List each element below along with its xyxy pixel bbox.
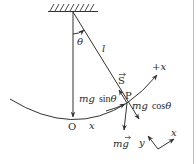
arc-x-label: x xyxy=(89,120,95,131)
svg-text:mg: mg xyxy=(113,138,129,149)
mg-sin-theta-label: mg sinθ xyxy=(79,88,117,105)
pendulum-diagram: θ l +x S P mg sinθ mg cosθ mg O x y x xyxy=(0,0,196,164)
local-axes: y x xyxy=(138,127,177,149)
theta-label: θ xyxy=(77,36,83,47)
mg-cos-theta-label: mg cosθ xyxy=(132,95,171,112)
axis-x-label: x xyxy=(171,127,177,138)
point-p-label: P xyxy=(125,90,132,101)
svg-text:S: S xyxy=(118,75,125,86)
tension-label: S xyxy=(118,73,126,86)
weight-label: mg xyxy=(113,136,131,149)
origin-o-label: O xyxy=(68,121,76,132)
weight-vector xyxy=(124,103,127,130)
plus-x-label: +x xyxy=(152,61,166,72)
axis-y-label: y xyxy=(138,137,145,148)
theta-angle-arc xyxy=(73,30,84,34)
ceiling-support xyxy=(48,4,98,12)
length-label: l xyxy=(102,43,105,54)
